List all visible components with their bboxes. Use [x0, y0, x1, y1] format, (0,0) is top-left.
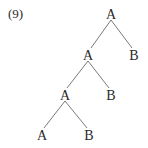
tree-node-l3-a: A	[32, 129, 52, 143]
tree-node-root: A	[101, 8, 121, 22]
edge-l1-right	[88, 61, 109, 88]
tree-node-l1-b: B	[124, 49, 144, 63]
tree-node-l1-a: A	[78, 49, 98, 63]
edge-l2-left	[44, 101, 65, 128]
edge-root-left	[91, 20, 111, 48]
tree-edges	[0, 0, 148, 148]
tree-node-l2-b: B	[101, 89, 121, 103]
tree-node-l3-b: B	[79, 129, 99, 143]
edge-l1-left	[67, 61, 88, 88]
tree-node-l2-a: A	[55, 89, 75, 103]
edge-root-right	[111, 20, 132, 48]
edge-l2-right	[65, 101, 87, 128]
